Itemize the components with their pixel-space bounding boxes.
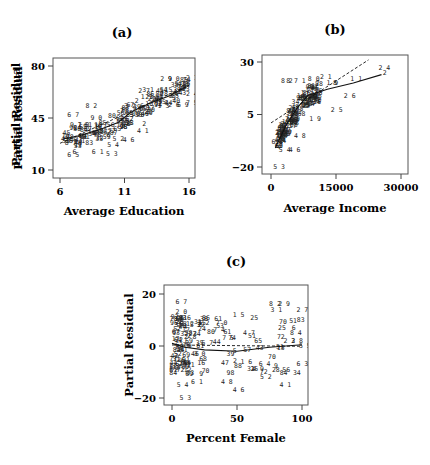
point-label: 4 7: [243, 329, 255, 337]
point-label: 6 7: [67, 111, 79, 119]
y-tick-label: 20: [142, 289, 156, 300]
x-tick-label: 50: [230, 413, 244, 424]
point-label: 7: [178, 81, 182, 89]
point-label: 5 2: [260, 373, 272, 381]
point-label: 6 4: [259, 360, 271, 368]
point-label: 25: [171, 92, 179, 100]
point-label: 4 8: [221, 378, 233, 386]
point-label: 3 0: [194, 350, 206, 358]
x-axis-label: Percent Female: [186, 431, 286, 445]
point-label: 1 6: [241, 358, 253, 366]
point-label: 32: [95, 134, 103, 142]
x-axis-label: Average Education: [63, 204, 185, 218]
panel-title: (a): [112, 25, 133, 40]
x-axis-label: Average Income: [282, 201, 386, 215]
point-label: 69: [182, 351, 190, 359]
point-label: 56: [282, 366, 290, 374]
point-label: 6 1: [191, 378, 203, 386]
plot-area: 5733731252333924394772845586359253262839…: [169, 298, 311, 402]
x-tick-label: 0: [268, 182, 275, 193]
point-label: 31: [174, 321, 182, 329]
point-label: 9 0: [91, 114, 103, 122]
x-tick-label: 6: [57, 186, 64, 197]
panel-title: (b): [324, 22, 345, 37]
point-label: 1 0: [169, 363, 181, 371]
point-label: 83: [297, 316, 305, 324]
x-tick-label: 30000: [384, 182, 419, 193]
point-label: 4 6: [289, 146, 301, 154]
point-label: 6 7: [176, 298, 188, 306]
y-tick-label: 5: [247, 109, 254, 120]
point-label: 8: [333, 79, 337, 87]
point-label: 3 2: [124, 102, 136, 110]
point-label: 93: [172, 329, 180, 337]
point-label: 51: [289, 317, 297, 325]
y-axis-label: Partial Residual: [122, 293, 136, 397]
y-tick-label: 45: [31, 113, 45, 124]
point-label: 6 1: [92, 148, 104, 156]
point-label: 2 6: [344, 92, 356, 100]
point-label: 83: [85, 139, 93, 147]
panel-c: (c)050100−20020Percent FemalePartial Res…: [122, 254, 312, 445]
point-label: 8 4: [290, 329, 302, 337]
ls-fit-line: [60, 85, 189, 143]
point-label: 45: [156, 87, 164, 95]
point-label: 15: [277, 344, 285, 352]
point-label: 2 9: [278, 300, 290, 308]
x-tick-label: 100: [292, 413, 313, 424]
point-label: 52: [103, 128, 111, 136]
point-label: 7 0: [78, 121, 90, 129]
point-label: 5 5: [299, 342, 311, 350]
point-label: 65: [254, 337, 262, 345]
point-label: 8 2: [85, 102, 97, 110]
point-label: 8 0: [308, 75, 320, 83]
point-label: 28: [272, 366, 280, 374]
point-label: 5 4: [177, 381, 189, 389]
point-label: 44: [183, 359, 191, 367]
x-tick-label: 0: [169, 413, 176, 424]
plot-area: 1250587749161896945417231635242475225644…: [60, 74, 198, 159]
point-label: 98: [226, 369, 234, 377]
point-label: 5 3: [179, 394, 191, 402]
point-label: 7 0: [216, 319, 228, 327]
point-label: 5 3: [273, 163, 285, 171]
point-label: 1: [302, 77, 306, 85]
point-label: 2 4: [186, 90, 198, 98]
point-label: 6 9: [177, 101, 189, 109]
point-label: 6: [271, 138, 275, 146]
point-label: 7 5: [222, 334, 234, 342]
point-label: 1 1: [141, 93, 153, 101]
point-label: 48: [122, 120, 130, 128]
panel-a: (a)61116104580Average EducationPartial R…: [11, 25, 198, 218]
x-tick-label: 11: [118, 186, 132, 197]
point-label: 4 6: [123, 136, 135, 144]
point-label: 1 5: [233, 311, 245, 319]
point-label: 70: [202, 367, 210, 375]
point-label: 4 1: [280, 381, 292, 389]
point-label: 2: [383, 69, 387, 77]
point-label: 2 5: [331, 106, 343, 114]
point-label: 5 7: [202, 339, 214, 347]
point-label: 7 4: [213, 326, 225, 334]
y-tick-label: 0: [149, 341, 156, 352]
point-label: 2: [187, 332, 191, 340]
panel-title: (c): [226, 254, 246, 269]
point-label: 6: [72, 148, 76, 156]
point-label: 2 2: [283, 337, 295, 345]
point-label: 34: [312, 98, 320, 106]
point-label: 47: [221, 359, 229, 367]
y-tick-label: 80: [31, 61, 45, 72]
point-label: 70: [279, 318, 287, 326]
point-label: 4 6: [233, 386, 245, 394]
point-label: 34: [293, 369, 301, 377]
point-label: 4 1: [137, 127, 149, 135]
y-axis-label: Partial Residual: [9, 62, 23, 166]
point-label: 2 0: [176, 308, 188, 316]
y-tick-label: 10: [31, 165, 45, 176]
point-label: 3 2: [198, 319, 210, 327]
y-tick-label: −20: [134, 393, 156, 404]
y-tick-label: 30: [240, 57, 254, 68]
plot-area: 7746492620702215899058335874244888868526…: [271, 60, 390, 171]
point-label: 5 3: [106, 150, 118, 158]
point-label: 1 9: [309, 115, 321, 123]
